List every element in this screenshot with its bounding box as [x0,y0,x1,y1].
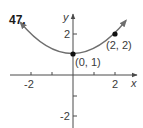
point-label-0-1: (0, 1) [75,57,101,68]
x-axis-label: x [131,78,137,89]
problem-number: 47. [9,14,26,26]
y-tick-label-2: 2 [64,29,70,40]
x-tick-label-neg2: -2 [24,79,34,90]
x-tick-label-2: 2 [112,79,118,90]
point-2-2 [112,31,117,36]
y-tick-label-neg2: -2 [60,111,70,122]
y-axis-label: y [63,12,69,23]
point-label-2-2: (2, 2) [106,40,132,51]
